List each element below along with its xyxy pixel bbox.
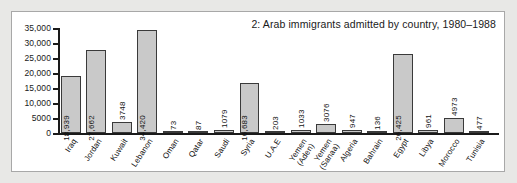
bar[interactable]	[367, 131, 387, 133]
bar-slot: 3076	[313, 28, 339, 133]
x-label-slot: Saudi	[211, 135, 237, 183]
bar-slot: 27,662	[84, 28, 110, 133]
bar-value-label: 961	[424, 114, 433, 128]
x-label-slot: Libya	[415, 135, 441, 183]
x-label-slot: Yemen(Aden)	[288, 135, 314, 183]
x-tick-label: Qatar	[187, 137, 206, 159]
y-tick-label: 0	[46, 128, 51, 138]
bar-series: 18,93927,662374834,4207387107916,6832031…	[58, 28, 492, 133]
x-label-slot: Jordan	[84, 135, 110, 183]
x-label-slot: Iraq	[58, 135, 84, 183]
bar-slot: 136	[364, 28, 390, 133]
bar-value-label: 1079	[219, 109, 228, 128]
x-label-slot: Tunisia	[467, 135, 493, 183]
bar[interactable]	[418, 130, 438, 133]
bar-slot: 26,425	[390, 28, 416, 133]
x-label-slot: Morocco	[441, 135, 467, 183]
bar[interactable]	[469, 131, 489, 133]
x-tick-label: Egypt	[391, 137, 410, 159]
bar-slot: 16,683	[237, 28, 263, 133]
y-tick-label: 10,000	[24, 98, 51, 108]
bar[interactable]	[163, 131, 183, 133]
x-tick-label: Syria	[239, 137, 257, 158]
bar-value-label: 136	[373, 116, 382, 130]
bar[interactable]: 26,425	[393, 54, 413, 133]
x-label-slot: Algeria	[339, 135, 365, 183]
x-tick-label: Oman	[161, 137, 181, 161]
bar-value-label: 3748	[117, 101, 126, 120]
x-tick-label: Libya	[418, 137, 436, 158]
x-label-slot: Egypt	[390, 135, 416, 183]
bar-slot: 3748	[109, 28, 135, 133]
bar-value-label: 73	[168, 121, 177, 130]
bar-value-label: 3076	[322, 103, 331, 122]
x-tick-label: Lebanon	[130, 137, 155, 169]
y-tick-label: 30,000	[24, 38, 51, 48]
y-tick-label: 20,000	[24, 68, 51, 78]
x-tick-label: U.A.E	[263, 137, 282, 160]
x-tick-label: Kuwait	[108, 137, 129, 163]
bar-slot: 4973	[441, 28, 467, 133]
y-tick-label: 15,000	[24, 83, 51, 93]
bar-value-label: 477	[475, 116, 484, 130]
bar-slot: 18,939	[58, 28, 84, 133]
bar[interactable]	[112, 122, 132, 133]
x-label-slot: Oman	[160, 135, 186, 183]
bar[interactable]	[265, 131, 285, 133]
x-tick-label: Iraq	[63, 137, 78, 154]
bar[interactable]: 34,420	[137, 30, 157, 133]
bar[interactable]	[214, 130, 234, 133]
bar-value-label: 203	[271, 116, 280, 130]
bar-slot: 1079	[211, 28, 237, 133]
x-tick-label: Yemen(Sanaa)	[310, 137, 341, 171]
x-label-slot: Yemen(Sanaa)	[313, 135, 339, 183]
y-tick-label: 5000	[32, 113, 51, 123]
x-tick-label: Saudi	[213, 137, 232, 159]
bar-slot: 203	[262, 28, 288, 133]
bar-slot: 947	[339, 28, 365, 133]
x-tick-label: Bahrain	[362, 137, 385, 166]
y-tick-label: 25,000	[24, 53, 51, 63]
x-label-slot: Bahrain	[364, 135, 390, 183]
bar[interactable]: 27,662	[86, 50, 106, 133]
x-label-slot: Lebanon	[135, 135, 161, 183]
x-tick-label: Jordan	[83, 137, 104, 163]
x-tick-label: Tunisia	[465, 137, 487, 164]
bar[interactable]: 18,939	[61, 76, 81, 133]
bar-slot: 73	[160, 28, 186, 133]
bar[interactable]	[342, 130, 362, 133]
x-label-slot: U.A.E	[262, 135, 288, 183]
bar[interactable]	[316, 124, 336, 133]
bar-slot: 87	[186, 28, 212, 133]
x-tick-label: Morocco	[437, 137, 462, 168]
x-tick-label: Algeria	[338, 137, 359, 163]
chart-figure: 2: Arab immigrants admitted by country, …	[11, 11, 505, 172]
x-label-slot: Qatar	[186, 135, 212, 183]
bar[interactable]	[291, 130, 311, 133]
bar-value-label: 1033	[296, 109, 305, 128]
bar-slot: 477	[467, 28, 493, 133]
bar-value-label: 87	[194, 121, 203, 130]
y-tick-label: 35,000	[24, 23, 51, 33]
bar-value-label: 947	[347, 114, 356, 128]
plot-area: 0500010,00015,00020,00025,00030,00035,00…	[58, 28, 492, 133]
bar-slot: 961	[415, 28, 441, 133]
bar[interactable]: 16,683	[240, 83, 260, 133]
bar-slot: 34,420	[135, 28, 161, 133]
x-label-slot: Syria	[237, 135, 263, 183]
bar-slot: 1033	[288, 28, 314, 133]
bar-value-label: 4973	[449, 97, 458, 116]
bar[interactable]	[444, 118, 464, 133]
x-tick-label: Yemen(Aden)	[287, 137, 316, 168]
x-axis-labels: IraqJordanKuwaitLebanonOmanQatarSaudiSyr…	[58, 135, 492, 183]
x-label-slot: Kuwait	[109, 135, 135, 183]
bar[interactable]	[188, 131, 208, 133]
